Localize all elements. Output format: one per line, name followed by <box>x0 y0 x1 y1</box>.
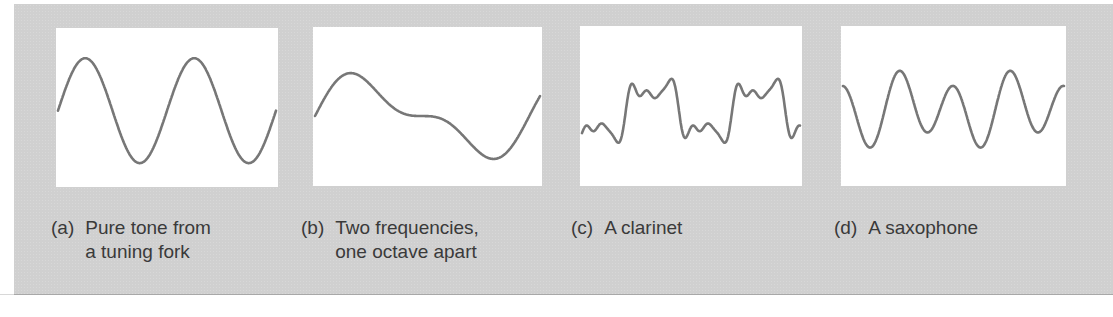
caption-c-tag: (c) <box>571 216 593 240</box>
caption-a-line-2: a tuning fork <box>85 240 211 264</box>
waveform-b-plot <box>313 27 542 186</box>
caption-b-line-2: one octave apart <box>335 240 479 264</box>
caption-c: (c) A clarinet <box>571 216 682 240</box>
caption-b-tag: (b) <box>301 216 324 264</box>
waveform-a-plot <box>56 28 278 187</box>
caption-a-tag: (a) <box>51 216 74 264</box>
caption-a-line-1: Pure tone from <box>85 216 211 240</box>
panel-c-waveform-box <box>580 26 802 186</box>
waveform-a-line <box>58 58 276 163</box>
panel-d-waveform-box <box>841 26 1066 186</box>
waveform-c-plot <box>580 26 802 186</box>
caption-b: (b) Two frequencies, one octave apart <box>301 216 479 264</box>
waveform-d-plot <box>841 26 1066 186</box>
waveform-d-line <box>843 71 1064 148</box>
caption-d: (d) A saxophone <box>834 216 978 240</box>
caption-b-line-1: Two frequencies, <box>335 216 479 240</box>
waveform-c-line <box>582 79 800 143</box>
panel-a-waveform-box <box>56 28 278 187</box>
caption-a: (a) Pure tone from a tuning fork <box>51 216 211 264</box>
waveform-b-line <box>315 73 540 159</box>
caption-d-line-1: A saxophone <box>868 216 978 240</box>
panel-b-waveform-box <box>313 27 542 186</box>
caption-c-line-1: A clarinet <box>604 216 682 240</box>
rule-line <box>0 294 14 295</box>
caption-d-tag: (d) <box>834 216 857 240</box>
